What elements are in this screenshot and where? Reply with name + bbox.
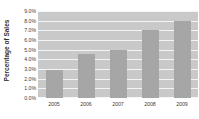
y-axis-title-label: Percentage of Sales: [4, 20, 11, 82]
x-axis-tick-label: 2005: [38, 100, 70, 108]
y-axis-tick-label: 3.0%: [13, 66, 36, 72]
y-axis-tick-label: 5.0%: [13, 47, 36, 53]
y-axis-tick-labels: 9.0%8.0%7.0%6.0%5.0%4.0%3.0%2.0%1.0%0.0%: [13, 8, 37, 101]
y-axis-tick-label: 7.0%: [13, 27, 36, 33]
bar-slot: [38, 11, 70, 98]
x-axis-tick-label: 2006: [70, 100, 102, 108]
bar-2007: [110, 50, 127, 98]
bar-2005: [46, 70, 63, 98]
bar-slot: [134, 11, 166, 98]
bar-slot: [70, 11, 102, 98]
y-axis-tick-label: 9.0%: [13, 8, 36, 14]
plot-area: [38, 11, 198, 98]
bar-chart: Percentage of Sales 9.0%8.0%7.0%6.0%5.0%…: [0, 0, 199, 119]
bar-2008: [142, 30, 159, 98]
bar-slot: [166, 11, 198, 98]
x-axis-tick-label: 2008: [134, 100, 166, 108]
y-axis-tick-label: 8.0%: [13, 18, 36, 24]
y-axis-tick-label: 4.0%: [13, 56, 36, 62]
bar-2006: [78, 54, 95, 98]
y-axis-tick-label: 6.0%: [13, 37, 36, 43]
x-axis-tick-label: 2007: [102, 100, 134, 108]
x-axis-tick-label: 2009: [166, 100, 198, 108]
bar-slot: [102, 11, 134, 98]
y-axis-title: Percentage of Sales: [0, 0, 14, 101]
x-axis-tick-labels: 20052006200720082009: [38, 100, 198, 112]
y-axis-tick-label: 1.0%: [13, 85, 36, 91]
y-axis-tick-label: 0.0%: [13, 95, 36, 101]
y-axis-tick-label: 2.0%: [13, 76, 36, 82]
bars-group: [38, 11, 198, 98]
bar-2009: [174, 21, 191, 98]
